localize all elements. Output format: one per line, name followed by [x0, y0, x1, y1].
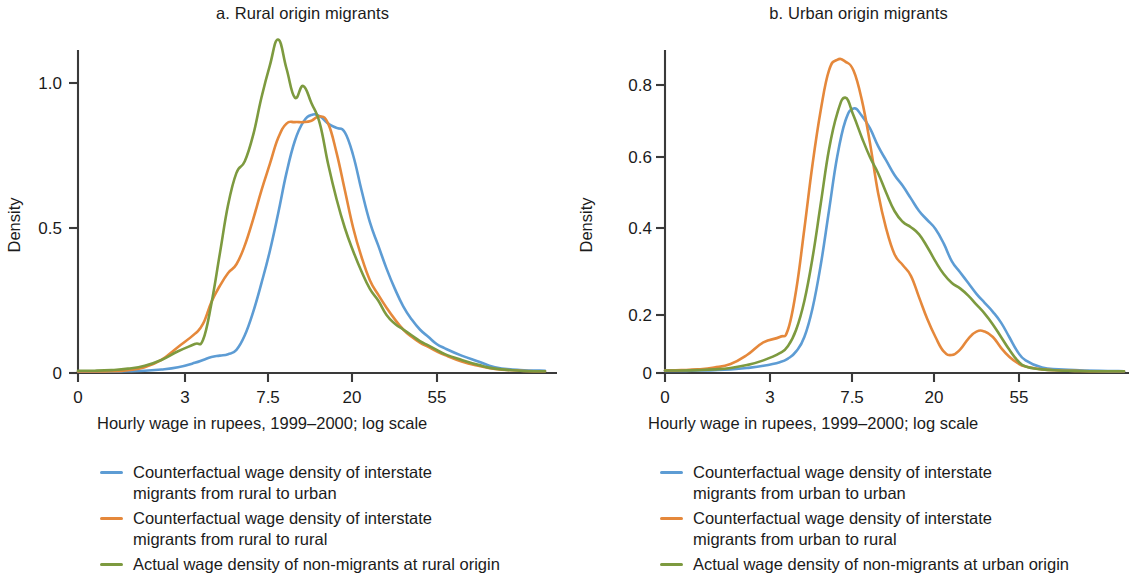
legend-item-label: Counterfactual wage density of interstat…	[133, 462, 432, 504]
panel-b-legend: Counterfactual wage density of interstat…	[564, 462, 1129, 579]
svg-text:3: 3	[180, 388, 189, 407]
svg-text:0.8: 0.8	[628, 76, 652, 95]
svg-text:0: 0	[53, 364, 62, 383]
legend-line-swatch-green	[100, 563, 123, 566]
panel-b-plot: 037.5205500.20.40.60.8Density	[564, 0, 1129, 450]
svg-text:7.5: 7.5	[256, 388, 280, 407]
legend-item: Actual wage density of non-migrants at u…	[564, 554, 1129, 575]
svg-text:55: 55	[428, 388, 447, 407]
svg-text:Density: Density	[5, 197, 23, 253]
panel-rural-origin-migrants: a. Rural origin migrants 037.5205500.51.…	[0, 0, 565, 587]
svg-text:0.2: 0.2	[628, 306, 652, 325]
svg-text:7.5: 7.5	[840, 388, 864, 407]
svg-text:Density: Density	[577, 197, 595, 253]
density-curve	[665, 108, 1124, 371]
legend-item: Counterfactual wage density of interstat…	[564, 508, 1129, 550]
density-curve	[78, 39, 545, 371]
density-curve	[665, 98, 1124, 372]
svg-text:0.6: 0.6	[628, 148, 652, 167]
legend-item-label: Counterfactual wage density of interstat…	[133, 508, 432, 550]
svg-text:0: 0	[660, 388, 669, 407]
panel-a-x-axis-label: Hourly wage in rupees, 1999–2000; log sc…	[97, 414, 427, 433]
legend-line-swatch-green	[660, 563, 683, 566]
legend-item-label: Actual wage density of non-migrants at u…	[693, 554, 1069, 575]
density-curve	[78, 114, 545, 371]
svg-text:0.4: 0.4	[628, 219, 652, 238]
legend-item-label: Counterfactual wage density of interstat…	[693, 462, 992, 504]
figure-root: a. Rural origin migrants 037.5205500.51.…	[0, 0, 1129, 587]
svg-text:0: 0	[73, 388, 82, 407]
panel-urban-origin-migrants: b. Urban origin migrants 037.5205500.20.…	[564, 0, 1129, 587]
svg-text:1.0: 1.0	[38, 74, 62, 93]
legend-line-swatch-blue	[100, 471, 123, 474]
legend-item: Counterfactual wage density of interstat…	[0, 508, 565, 550]
svg-text:0: 0	[643, 364, 652, 383]
svg-text:3: 3	[765, 388, 774, 407]
legend-line-swatch-orange	[100, 517, 123, 520]
legend-line-swatch-orange	[660, 517, 683, 520]
density-curve	[78, 116, 545, 371]
panel-b-x-axis-label: Hourly wage in rupees, 1999–2000; log sc…	[648, 414, 978, 433]
svg-text:55: 55	[1010, 388, 1029, 407]
panel-a-plot: 037.5205500.51.0Density	[0, 0, 565, 450]
legend-item: Counterfactual wage density of interstat…	[0, 462, 565, 504]
legend-item-label: Counterfactual wage density of interstat…	[693, 508, 992, 550]
legend-line-swatch-blue	[660, 471, 683, 474]
svg-text:20: 20	[925, 388, 944, 407]
legend-item: Actual wage density of non-migrants at r…	[0, 554, 565, 575]
svg-text:0.5: 0.5	[38, 219, 62, 238]
panel-a-legend: Counterfactual wage density of interstat…	[0, 462, 565, 579]
density-curve	[665, 59, 1124, 371]
svg-text:20: 20	[343, 388, 362, 407]
legend-item-label: Actual wage density of non-migrants at r…	[133, 554, 500, 575]
legend-item: Counterfactual wage density of interstat…	[564, 462, 1129, 504]
